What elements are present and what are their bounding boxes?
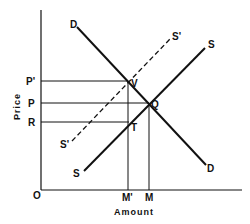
- demand-label-top: D: [70, 19, 77, 30]
- shifted-supply-label-top: S': [172, 31, 181, 42]
- shifted-supply-curve: [72, 39, 170, 141]
- origin-label: O: [33, 190, 41, 201]
- price-p-label: P: [28, 98, 35, 109]
- supply-demand-diagram: D D S S S' S' V Q T P' P R M' M O Price …: [0, 0, 250, 224]
- point-q-label: Q: [151, 99, 159, 110]
- supply-label-bottom: S: [73, 168, 80, 179]
- point-v-label: V: [131, 78, 138, 89]
- shifted-supply-label-bottom: S': [60, 139, 69, 150]
- demand-curve: [77, 27, 206, 165]
- price-r-label: R: [28, 117, 36, 128]
- y-axis-title: Price: [12, 93, 22, 120]
- supply-label-top: S: [208, 39, 215, 50]
- price-p-prime-label: P': [26, 76, 35, 87]
- x-axis-title: Amount: [114, 207, 154, 217]
- quantity-m-label: M: [145, 192, 153, 203]
- quantity-m-prime-label: M': [122, 192, 133, 203]
- demand-label-bottom: D: [207, 163, 214, 174]
- point-t-label: T: [131, 122, 137, 133]
